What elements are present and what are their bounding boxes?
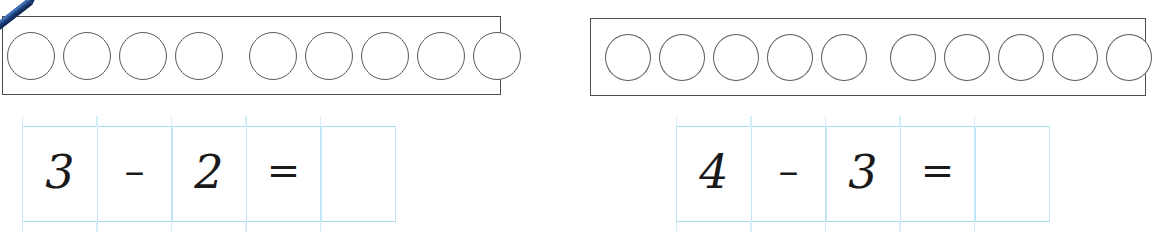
- counter-circle[interactable]: [713, 34, 759, 81]
- equation-cell-number: 2: [171, 126, 247, 222]
- counter-circle[interactable]: [175, 32, 223, 80]
- counter-circle[interactable]: [119, 32, 167, 80]
- counter-group-1: [7, 32, 223, 80]
- equation-cell-number: 3: [22, 126, 98, 222]
- equation-glyph: 4: [699, 149, 728, 195]
- counter-circle[interactable]: [659, 34, 705, 81]
- counter-circle[interactable]: [63, 32, 111, 80]
- counter-strip-problem-2: [590, 18, 1146, 96]
- equation-cell-number: 4: [676, 126, 752, 222]
- counter-strip-problem-1: [2, 16, 501, 95]
- equation-glyph: =: [921, 150, 955, 190]
- equation-cell-number: 3: [825, 126, 901, 222]
- worksheet-page: 3–2= 4–3=: [0, 0, 1169, 239]
- equation-glyph: =: [267, 150, 301, 190]
- equation-cell-operator: =: [900, 126, 976, 222]
- counter-circle[interactable]: [1052, 34, 1098, 81]
- counter-circle[interactable]: [890, 34, 936, 81]
- equation-glyph: 3: [848, 149, 877, 195]
- counter-circle[interactable]: [605, 34, 651, 81]
- counter-circle[interactable]: [417, 32, 465, 80]
- counter-group-2: [890, 34, 1152, 81]
- equation-glyph: 3: [45, 149, 74, 195]
- equation-cell-operator: –: [751, 126, 827, 222]
- counter-circle[interactable]: [473, 32, 521, 80]
- counter-circle[interactable]: [998, 34, 1044, 81]
- counter-circle[interactable]: [1106, 34, 1152, 81]
- counter-group-2: [249, 32, 521, 80]
- equation-glyph: –: [779, 150, 799, 190]
- counter-circle[interactable]: [361, 32, 409, 80]
- equation-cell-operator: =: [246, 126, 322, 222]
- equation-grid-problem-2: 4–3=: [676, 126, 1049, 222]
- answer-cell[interactable]: [974, 126, 1050, 222]
- counter-circle[interactable]: [7, 32, 55, 80]
- counter-circle[interactable]: [767, 34, 813, 81]
- counter-circle[interactable]: [305, 32, 353, 80]
- counter-circle[interactable]: [821, 34, 867, 81]
- counter-circle[interactable]: [944, 34, 990, 81]
- counter-circle[interactable]: [249, 32, 297, 80]
- equation-grid-problem-1: 3–2=: [22, 126, 395, 222]
- equation-glyph: –: [125, 150, 145, 190]
- answer-cell[interactable]: [320, 126, 396, 222]
- counter-group-1: [605, 34, 867, 81]
- equation-cell-operator: –: [97, 126, 173, 222]
- equation-glyph: 2: [194, 149, 223, 195]
